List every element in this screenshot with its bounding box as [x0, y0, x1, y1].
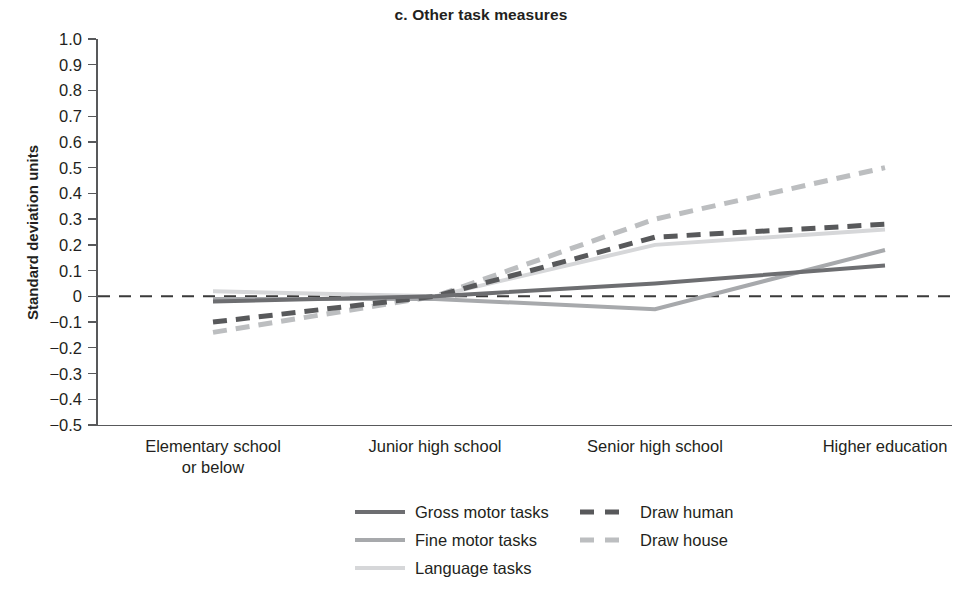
legend-swatch-solid-icon — [355, 505, 405, 519]
legend-label: Draw human — [640, 503, 734, 522]
y-axis-tick-mark — [88, 116, 96, 117]
legend-swatch-dashed-icon — [580, 505, 630, 519]
legend-swatch-dashed-icon — [580, 533, 630, 547]
y-axis-tick-mark — [88, 244, 96, 245]
series-line-language-tasks — [213, 229, 885, 296]
legend-label: Fine motor tasks — [415, 531, 537, 550]
x-axis-tick-label-line: Junior high school — [320, 436, 550, 457]
y-axis-tick-mark — [88, 64, 96, 65]
y-axis-tick-mark — [88, 270, 96, 271]
chart-legend: Gross motor tasksFine motor tasksLanguag… — [355, 498, 775, 584]
legend-item[interactable]: Gross motor tasks — [355, 498, 585, 526]
legend-swatch-solid-icon — [355, 533, 405, 547]
y-axis-tick-mark — [88, 347, 96, 348]
y-axis-tick-mark — [88, 218, 96, 219]
x-axis-tick-label-line: Elementary school — [98, 436, 328, 457]
legend-label: Language tasks — [415, 559, 532, 578]
legend-item[interactable]: Language tasks — [355, 554, 585, 582]
legend-column-right: Draw humanDraw house — [580, 498, 780, 554]
x-axis-tick-label: Elementary schoolor below — [98, 436, 328, 478]
legend-swatch-solid-icon — [355, 561, 405, 575]
y-axis-tick-mark — [88, 167, 96, 168]
legend-column-left: Gross motor tasksFine motor tasksLanguag… — [355, 498, 585, 582]
y-axis-tick-mark — [88, 296, 96, 297]
x-axis-tick-label-line: Higher education — [770, 436, 962, 457]
y-axis-tick-mark — [88, 424, 96, 425]
y-axis-tick-mark — [88, 399, 96, 400]
legend-item[interactable]: Fine motor tasks — [355, 526, 585, 554]
x-axis-tick-label: Higher education — [770, 436, 962, 457]
y-axis-tick-mark — [88, 141, 96, 142]
x-axis-tick-label: Senior high school — [540, 436, 770, 457]
y-axis-tick-mark — [88, 38, 96, 39]
x-axis-tick-label: Junior high school — [320, 436, 550, 457]
chart-figure: c. Other task measures Standard deviatio… — [0, 0, 962, 590]
y-axis-tick-mark — [88, 373, 96, 374]
legend-label: Draw house — [640, 531, 728, 550]
x-axis-tick-label-line: Senior high school — [540, 436, 770, 457]
legend-label: Gross motor tasks — [415, 503, 549, 522]
series-line-draw-house — [213, 168, 885, 333]
legend-item[interactable]: Draw house — [580, 526, 780, 554]
x-axis-tick-label-line: or below — [98, 457, 328, 478]
y-axis-tick-mark — [88, 193, 96, 194]
y-axis-tick-mark — [88, 321, 96, 322]
legend-item[interactable]: Draw human — [580, 498, 780, 526]
y-axis-tick-mark — [88, 90, 96, 91]
